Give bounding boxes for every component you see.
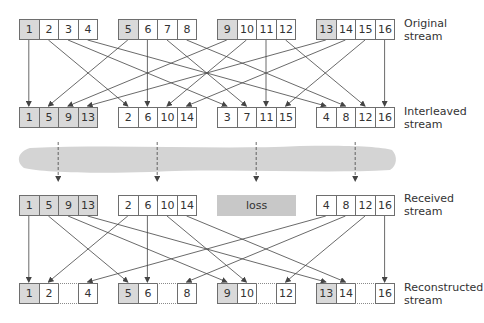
interleaving-diagram: 1234567891011121314151615913261014371115… [0, 0, 484, 323]
label-line: Original [404, 17, 447, 30]
packet-cell: 13 [78, 107, 99, 128]
packet-cell: 5 [39, 107, 60, 128]
packet-cell: 9 [58, 107, 79, 128]
reconstructed-stream-label: Reconstructed stream [404, 281, 483, 307]
packet-cell: 16 [375, 19, 396, 40]
packet-cell: 5 [39, 195, 60, 216]
packet-cell: 8 [336, 195, 357, 216]
packet-cell: 6 [138, 19, 159, 40]
missing-packet-slot [58, 283, 79, 304]
packet-cell: 7 [237, 107, 258, 128]
packet-cell: 9 [217, 19, 238, 40]
deinterleave-arrow [286, 216, 365, 282]
label-line: stream [404, 118, 467, 131]
packet-cell: 3 [58, 19, 79, 40]
packet-cell: 12 [276, 19, 297, 40]
packet-cell: 14 [336, 19, 357, 40]
loss-label: loss [246, 199, 267, 212]
packet-cell: 1 [19, 195, 40, 216]
packet-cell: 9 [58, 195, 79, 216]
packet-cell: 16 [375, 107, 396, 128]
packet-cell: 6 [138, 283, 159, 304]
connection-lines [0, 0, 484, 323]
missing-packet-slot [355, 283, 376, 304]
label-line: stream [404, 30, 447, 43]
packet-cell: 4 [316, 195, 337, 216]
packet-cell: 5 [118, 283, 139, 304]
packet-cell: 12 [355, 195, 376, 216]
packet-cell: 2 [39, 19, 60, 40]
packet-cell: 4 [316, 107, 337, 128]
packet-cell: 1 [19, 107, 40, 128]
packet-cell: 4 [78, 19, 99, 40]
packet-cell: 9 [217, 283, 238, 304]
label-line: Reconstructed [404, 281, 483, 294]
packet-cell: 13 [316, 19, 337, 40]
packet-cell: 11 [256, 107, 277, 128]
packet-cell: 14 [336, 283, 357, 304]
packet-cell: 2 [118, 107, 139, 128]
label-line: stream [404, 205, 454, 218]
packet-cell: 2 [39, 283, 60, 304]
packet-cell: 3 [217, 107, 238, 128]
packet-cell: 8 [177, 19, 198, 40]
packet-cell: 4 [78, 283, 99, 304]
interleaved-stream-label: Interleaved stream [404, 105, 467, 131]
packet-cell: 16 [375, 195, 396, 216]
packet-cell: 10 [157, 195, 178, 216]
packet-cell: 15 [355, 19, 376, 40]
packet-cell: 8 [177, 283, 198, 304]
packet-cell: 16 [375, 283, 396, 304]
packet-cell: 1 [19, 283, 40, 304]
packet-cell: 14 [177, 195, 198, 216]
packet-cell: 6 [138, 195, 159, 216]
packet-cell: 13 [316, 283, 337, 304]
packet-cell: 12 [355, 107, 376, 128]
packet-cell: 14 [177, 107, 198, 128]
packet-cell: 15 [276, 107, 297, 128]
packet-cell: 12 [276, 283, 297, 304]
packet-cell: 6 [138, 107, 159, 128]
missing-packet-slot [256, 283, 277, 304]
packet-cell: 5 [118, 19, 139, 40]
packet-cell: 11 [256, 19, 277, 40]
packet-cell: 13 [78, 195, 99, 216]
network-cloud [19, 146, 396, 173]
missing-packet-slot [157, 283, 178, 304]
packet-cell: 8 [336, 107, 357, 128]
packet-cell: 10 [237, 19, 258, 40]
label-line: stream [404, 294, 483, 307]
packet-cell: 1 [19, 19, 40, 40]
received-stream-label: Received stream [404, 192, 454, 218]
original-stream-label: Original stream [404, 17, 447, 43]
packet-cell: 10 [237, 283, 258, 304]
label-line: Interleaved [404, 105, 467, 118]
label-line: Received [404, 192, 454, 205]
packet-cell: 7 [157, 19, 178, 40]
loss-box: loss [217, 195, 296, 216]
packet-cell: 10 [157, 107, 178, 128]
packet-cell: 2 [118, 195, 139, 216]
